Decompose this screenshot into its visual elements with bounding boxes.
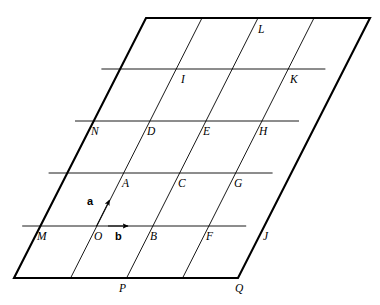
point-label-m: M bbox=[37, 231, 47, 243]
point-label-g: G bbox=[234, 178, 242, 190]
point-label-i: I bbox=[181, 74, 185, 86]
point-label-h: H bbox=[259, 126, 267, 138]
point-label-l: L bbox=[258, 24, 264, 36]
point-label-a: A bbox=[122, 178, 129, 190]
point-label-e: E bbox=[203, 126, 210, 138]
point-label-k: K bbox=[290, 74, 298, 86]
vector-a-label: a bbox=[87, 196, 93, 207]
lattice-figure: LIKNDEHACGMOBFJPQ ab bbox=[0, 0, 380, 305]
grid-line-slant-1 bbox=[71, 18, 202, 278]
point-label-n: N bbox=[91, 126, 99, 138]
horizontal-grid-lines bbox=[22, 69, 325, 226]
point-label-f: F bbox=[206, 231, 213, 243]
point-label-q: Q bbox=[235, 283, 243, 295]
point-label-b: B bbox=[150, 231, 157, 243]
grid-line-slant-2 bbox=[127, 18, 258, 278]
point-label-c: C bbox=[178, 178, 186, 190]
basis-vectors bbox=[97, 200, 129, 226]
point-label-j: J bbox=[263, 231, 268, 243]
point-label-o: O bbox=[94, 231, 102, 243]
point-label-d: D bbox=[147, 126, 155, 138]
point-label-p: P bbox=[119, 283, 126, 295]
slanted-grid-lines bbox=[71, 18, 314, 278]
vector-a-arrow bbox=[97, 200, 110, 226]
grid-line-slant-3 bbox=[183, 18, 314, 278]
vector-b-label: b bbox=[115, 231, 122, 242]
lattice-diagram-svg bbox=[0, 0, 380, 305]
